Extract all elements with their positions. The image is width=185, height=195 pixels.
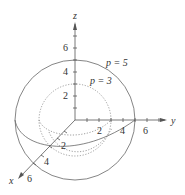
z-tick-4: 4: [63, 66, 68, 77]
x-tick-2: 2: [61, 140, 66, 151]
z-axis-label: z: [72, 10, 77, 21]
outer-sphere-label: p = 5: [105, 57, 128, 68]
y-tick-4: 4: [120, 125, 125, 136]
z-axis: [73, 22, 77, 120]
y-axis-label: y: [170, 115, 176, 126]
inner-sphere-label: p = 3: [89, 75, 112, 86]
z-tick-6: 6: [63, 42, 68, 53]
z-tick-2: 2: [63, 90, 68, 101]
y-tick-2: 2: [97, 125, 102, 136]
x-axis-label: x: [8, 175, 14, 186]
y-tick-6: 6: [143, 125, 148, 136]
x-tick-4: 4: [44, 156, 49, 167]
x-tick-6: 6: [27, 173, 32, 184]
y-axis: [75, 118, 167, 122]
sphere-diagram: z 2 4 6 y 2 4 6 x 2 4 6 p = 5 p = 3: [0, 0, 185, 195]
